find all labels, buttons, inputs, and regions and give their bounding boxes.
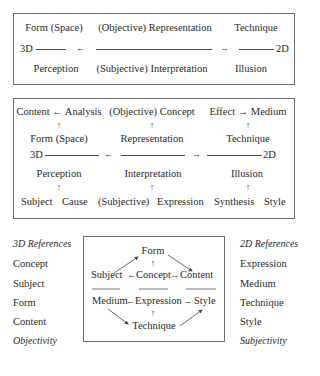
box3-content: Content	[180, 270, 213, 281]
box3-right-arrow: →	[183, 297, 192, 306]
box3-left-arrow: ←	[127, 271, 136, 280]
box3-technique: Technique	[132, 321, 176, 332]
box3-left-arrow: ←	[126, 297, 135, 306]
box3-concept: Concept	[136, 270, 171, 281]
box3-medium: Medium	[92, 296, 128, 307]
up-arrow-icon: ↑	[151, 259, 156, 268]
box3-expression: Expression	[135, 296, 182, 307]
box3-style: Style	[194, 296, 216, 307]
box3-form: Form	[142, 246, 165, 257]
box3-subject: Subject	[91, 270, 123, 281]
box3-right-arrow: →	[170, 271, 179, 280]
up-arrow-icon: ↑	[151, 309, 156, 318]
